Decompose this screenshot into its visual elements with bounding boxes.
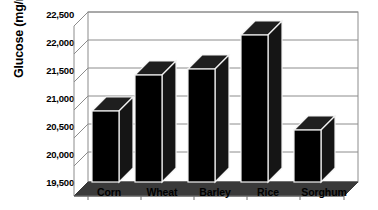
glucose-bar-chart: Glucose (mg/ml/min) 22,500 22,000 21,500…: [0, 0, 378, 210]
category-label-rice: Rice: [257, 186, 279, 198]
bar-wheat[interactable]: [135, 61, 176, 182]
x-axis-category-labels: Corn Wheat Barley Rice Sorghum: [74, 186, 364, 206]
wall-edge: [74, 68, 88, 82]
bar-barley[interactable]: [188, 55, 229, 182]
category-label-sorghum: Sorghum: [301, 186, 346, 198]
wall-edge: [74, 40, 88, 54]
bar-rice[interactable]: [241, 21, 282, 182]
wall-edge: [74, 96, 88, 110]
category-label-barley: Barley: [199, 186, 231, 198]
bar-corn[interactable]: [92, 97, 133, 182]
category-label-corn: Corn: [97, 186, 121, 198]
wall-edge: [74, 124, 88, 138]
left-wall: [74, 12, 88, 196]
category-label-wheat: Wheat: [146, 186, 177, 198]
plot-area: [0, 0, 378, 210]
bar-sorghum[interactable]: [294, 116, 335, 182]
wall-edge: [74, 152, 88, 166]
wall-edge: [74, 12, 88, 26]
